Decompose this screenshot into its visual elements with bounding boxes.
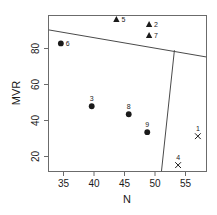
x-tick-label-55: 55: [180, 178, 192, 189]
y-tick-label-80: 80: [30, 43, 41, 55]
x-axis-title: N: [123, 193, 131, 205]
data-point-9: [144, 129, 150, 135]
data-point-label-8: 8: [127, 103, 131, 110]
x-tick-label-40: 40: [88, 178, 100, 189]
x-tick-label-50: 50: [149, 178, 161, 189]
y-tick-label-60: 60: [30, 79, 41, 91]
data-point-label-3: 3: [90, 95, 94, 102]
data-point-label-5: 5: [121, 16, 125, 23]
y-tick-label-20: 20: [30, 151, 41, 163]
chart-canvas: 80 60 40 20 MVR 35 40 45 50 55 N: [0, 0, 217, 215]
y-axis-title: MVR: [10, 81, 22, 106]
data-point-3: [89, 103, 95, 109]
data-point-label-2: 2: [154, 21, 158, 28]
data-point-label-9: 9: [145, 121, 149, 128]
data-point-label-7: 7: [154, 32, 158, 39]
data-point-8: [126, 111, 132, 117]
x-tick-label-35: 35: [58, 178, 70, 189]
data-point-6: [58, 41, 64, 47]
data-point-label-1: 1: [196, 125, 200, 132]
y-tick-label-40: 40: [30, 115, 41, 127]
scatter-plot-figure: 80 60 40 20 MVR 35 40 45 50 55 N: [0, 0, 217, 215]
data-point-label-6: 6: [66, 40, 70, 47]
x-tick-label-45: 45: [119, 178, 131, 189]
figure-caption: [0, 206, 217, 215]
data-point-label-4: 4: [176, 154, 180, 161]
